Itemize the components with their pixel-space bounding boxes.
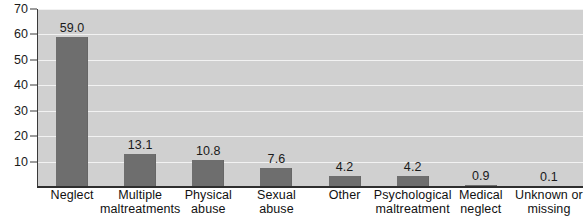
y-tick-mark [30,59,37,60]
y-tick-mark [30,9,37,10]
bar-value-label: 0.9 [472,169,490,183]
x-axis-category-label-line: Medical [459,188,503,202]
x-axis-category-label-line: Multiple [100,188,181,202]
x-axis-category-label: Physicalabuse [185,188,232,216]
bar-value-label: 4.2 [336,160,354,174]
x-axis-category-label-line: maltreatment [374,202,452,216]
y-tick-label: 30 [14,104,28,118]
y-tick-mark [30,110,37,111]
bar-value-label: 59.0 [60,21,85,35]
x-axis-category-label-line: Neglect [51,188,94,202]
x-axis-category-label: Medicalneglect [459,188,503,216]
x-axis-category-label: Neglect [51,188,94,202]
bar [192,160,224,187]
bar [124,154,156,187]
plot-area: 59.013.110.87.64.24.20.90.1 [38,9,583,187]
y-tick-label: 10 [14,155,28,169]
x-axis-category-label-line: abuse [185,202,232,216]
bar [260,168,292,187]
x-axis-category-label: Psychologicalmaltreatment [374,188,452,216]
y-tick-mark [30,85,37,86]
x-axis-category-label-line: Sexual [257,188,296,202]
bar-value-label: 0.1 [540,170,558,184]
x-axis-category-label-line: abuse [257,202,296,216]
y-tick-label: 50 [14,53,28,67]
x-axis-labels: NeglectMultiplemaltreatmentsPhysicalabus… [38,188,583,217]
x-axis-category-label-line: missing [515,202,583,216]
bars-layer: 59.013.110.87.64.24.20.90.1 [38,9,583,187]
x-axis-category-label: Sexualabuse [257,188,296,216]
y-tick-label: 70 [14,2,28,16]
x-axis-category-label: Multiplemaltreatments [100,188,181,216]
x-axis-category-label-line: Unknown or [515,188,583,202]
bar-value-label: 13.1 [128,138,153,152]
y-axis: 70605040302010 [0,0,30,217]
y-tick-label: 40 [14,78,28,92]
bar-value-label: 10.8 [196,144,221,158]
y-tick-label: 60 [14,27,28,41]
x-axis-category-label-line: Psychological [374,188,452,202]
bar [56,37,88,187]
bar-chart: 70605040302010 59.013.110.87.64.24.20.90… [0,0,587,217]
x-axis-category-label: Other [329,188,361,202]
x-axis-category-label-line: neglect [459,202,503,216]
y-tick-mark [30,136,37,137]
bar-value-label: 4.2 [404,160,422,174]
x-axis-category-label-line: maltreatments [100,202,181,216]
y-tick-label: 20 [14,129,28,143]
bar-value-label: 7.6 [268,152,286,166]
y-tick-mark [30,34,37,35]
x-axis-category-label-line: Physical [185,188,232,202]
x-axis-category-label: Unknown ormissing [515,188,583,216]
y-tick-mark [30,161,37,162]
x-axis-category-label-line: Other [329,188,361,202]
